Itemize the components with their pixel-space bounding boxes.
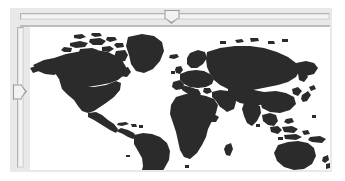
horizontal-slider-thumb[interactable]: [164, 10, 179, 24]
vertical-slider-thumb[interactable]: [13, 84, 27, 99]
world-map-graphic: [30, 27, 330, 170]
vertical-slider-thumb-pointer-fill: [21, 86, 25, 98]
horizontal-pan-slider[interactable]: [20, 11, 330, 22]
map-canvas[interactable]: [30, 27, 330, 170]
horizontal-slider-thumb-pointer-fill: [166, 18, 178, 22]
vertical-pan-slider[interactable]: [15, 27, 26, 168]
world-map-viewer: [0, 0, 345, 181]
